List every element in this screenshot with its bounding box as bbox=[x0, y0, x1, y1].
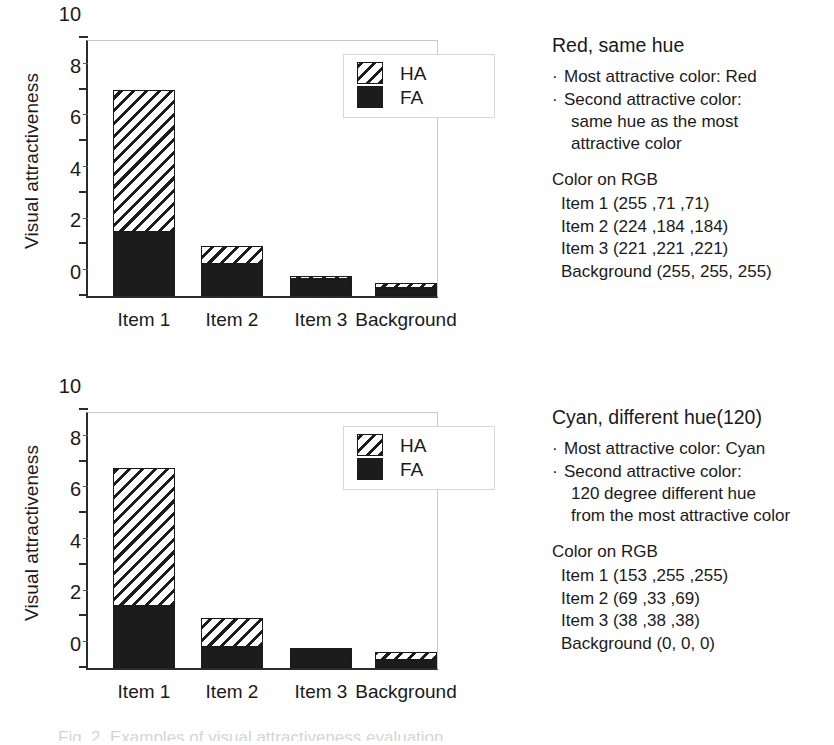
plot-area-top: HA FA 0246810Item 1Item 2Item 3Backgroun… bbox=[86, 40, 438, 298]
bar-segment-fa bbox=[375, 288, 437, 296]
y-tick-minor bbox=[83, 590, 88, 591]
bullet-line: Most attractive color: Red bbox=[564, 66, 834, 88]
x-tick-label-item-3: Item 3 bbox=[295, 309, 348, 331]
bullet-dot-icon: · bbox=[552, 89, 558, 111]
rgb-row: Background (0, 0, 0) bbox=[561, 633, 834, 655]
legend-label-ha: HA bbox=[400, 436, 426, 455]
legend-swatch-fa-icon bbox=[357, 458, 383, 480]
y-tick-minor bbox=[83, 114, 88, 115]
x-tick-label-item-1: Item 1 bbox=[118, 681, 171, 703]
bar-background bbox=[375, 652, 437, 668]
y-tick-major bbox=[79, 88, 88, 90]
panel-cyan-different-hue: Visual attractiveness HA FA 0246810Item … bbox=[0, 372, 834, 737]
legend-label-ha: HA bbox=[400, 64, 426, 83]
y-tick-label: 0 bbox=[70, 633, 81, 656]
legend-swatch-ha-icon bbox=[357, 62, 383, 84]
y-tick-label: 6 bbox=[70, 478, 81, 501]
rgb-list-bottom: Item 1 (153 ,255 ,255)Item 2 (69 ,33 ,69… bbox=[552, 565, 834, 655]
bar-segment-fa bbox=[201, 264, 263, 296]
chart-cyan-different-hue: Visual attractiveness HA FA 0246810Item … bbox=[0, 372, 540, 737]
y-axis-label-top: Visual attractiveness bbox=[21, 51, 43, 271]
bullet-line: same hue as the most bbox=[564, 111, 834, 133]
legend-entry-ha-bottom: HA bbox=[357, 433, 426, 457]
x-tick-label-item-3: Item 3 bbox=[295, 681, 348, 703]
y-tick-label: 10 bbox=[59, 3, 81, 26]
y-tick-minor bbox=[83, 166, 88, 167]
description-cyan-different-hue: Cyan, different hue(120) ·Most attractiv… bbox=[552, 406, 834, 655]
bullet-line: Most attractive color: Cyan bbox=[564, 438, 834, 460]
bullet-list-top: ·Most attractive color: Red·Second attra… bbox=[552, 66, 834, 155]
bar-background bbox=[375, 283, 437, 296]
y-tick-major bbox=[79, 563, 88, 565]
bar-segment-fa bbox=[290, 648, 352, 668]
y-tick-label: 2 bbox=[70, 581, 81, 604]
rgb-row: Item 2 (69 ,33 ,69) bbox=[561, 588, 834, 610]
y-tick-minor bbox=[83, 486, 88, 487]
y-tick-major bbox=[79, 614, 88, 616]
y-tick-major bbox=[79, 191, 88, 193]
bar-segment-ha bbox=[113, 468, 175, 606]
legend-top: HA FA bbox=[343, 54, 495, 118]
bar-segment-ha bbox=[113, 90, 175, 232]
bar-item-2 bbox=[201, 246, 263, 296]
rgb-list-top: Item 1 (255 ,71 ,71)Item 2 (224 ,184 ,18… bbox=[552, 193, 834, 283]
y-tick-label: 6 bbox=[70, 106, 81, 129]
rgb-row: Item 3 (221 ,221 ,221) bbox=[561, 238, 834, 260]
legend-entry-fa-top: FA bbox=[357, 85, 423, 109]
legend-swatch-fa-icon bbox=[357, 86, 383, 108]
y-tick-major bbox=[79, 408, 88, 410]
bar-segment-fa bbox=[113, 606, 175, 668]
bar-item-1 bbox=[113, 468, 175, 668]
bar-item-3 bbox=[290, 648, 352, 668]
y-tick-major bbox=[79, 294, 88, 296]
y-tick-minor bbox=[83, 641, 88, 642]
bar-item-1 bbox=[113, 90, 175, 296]
bullet-item: ·Most attractive color: Cyan bbox=[552, 438, 834, 460]
bullet-list-bottom: ·Most attractive color: Cyan·Second attr… bbox=[552, 438, 834, 527]
bullet-line: Second attractive color: bbox=[564, 461, 834, 483]
bullet-dot-icon: · bbox=[552, 461, 558, 483]
bullet-item: ·Second attractive color:same hue as the… bbox=[552, 89, 834, 155]
bullet-item: ·Second attractive color:120 degree diff… bbox=[552, 461, 834, 527]
panel-title-bottom: Cyan, different hue(120) bbox=[552, 406, 834, 429]
description-red-same-hue: Red, same hue ·Most attractive color: Re… bbox=[552, 34, 834, 283]
figure-caption: Fig. 2. Examples of visual attractivenes… bbox=[58, 728, 778, 741]
x-tick-label-item-2: Item 2 bbox=[206, 309, 259, 331]
y-axis-label-bottom: Visual attractiveness bbox=[21, 423, 43, 643]
bullet-dot-icon: · bbox=[552, 66, 558, 88]
bar-segment-fa bbox=[290, 279, 352, 296]
y-tick-label: 4 bbox=[70, 530, 81, 553]
x-tick-label-background: Background bbox=[355, 681, 456, 703]
legend-entry-fa-bottom: FA bbox=[357, 457, 423, 481]
legend-label-fa: FA bbox=[400, 460, 423, 479]
rgb-row: Item 2 (224 ,184 ,184) bbox=[561, 216, 834, 238]
x-tick-label-item-2: Item 2 bbox=[206, 681, 259, 703]
x-tick-label-background: Background bbox=[355, 309, 456, 331]
x-tick-label-item-1: Item 1 bbox=[118, 309, 171, 331]
bar-segment-fa bbox=[375, 660, 437, 668]
y-tick-label: 8 bbox=[70, 55, 81, 78]
y-tick-major bbox=[79, 139, 88, 141]
y-tick-label: 10 bbox=[59, 375, 81, 398]
y-tick-minor bbox=[83, 218, 88, 219]
bar-segment-fa bbox=[113, 232, 175, 297]
bar-segment-fa bbox=[201, 647, 263, 668]
y-tick-minor bbox=[83, 63, 88, 64]
bullet-item: ·Most attractive color: Red bbox=[552, 66, 834, 88]
bullet-line: Second attractive color: bbox=[564, 89, 834, 111]
y-tick-label: 2 bbox=[70, 209, 81, 232]
chart-red-same-hue: Visual attractiveness HA FA 0246810Item … bbox=[0, 0, 540, 365]
bar-segment-ha bbox=[201, 618, 263, 648]
rgb-heading-top: Color on RGB bbox=[552, 169, 834, 191]
rgb-row: Item 3 (38 ,38 ,38) bbox=[561, 610, 834, 632]
plot-area-bottom: HA FA 0246810Item 1Item 2Item 3Backgroun… bbox=[86, 412, 438, 670]
y-tick-major bbox=[79, 242, 88, 244]
panel-title-top: Red, same hue bbox=[552, 34, 834, 57]
rgb-row: Background (255, 255, 255) bbox=[561, 261, 834, 283]
y-tick-label: 4 bbox=[70, 158, 81, 181]
bar-segment-ha bbox=[290, 276, 352, 279]
bar-item-3 bbox=[290, 276, 352, 296]
rgb-row: Item 1 (153 ,255 ,255) bbox=[561, 565, 834, 587]
y-tick-minor bbox=[83, 269, 88, 270]
y-tick-minor bbox=[83, 435, 88, 436]
